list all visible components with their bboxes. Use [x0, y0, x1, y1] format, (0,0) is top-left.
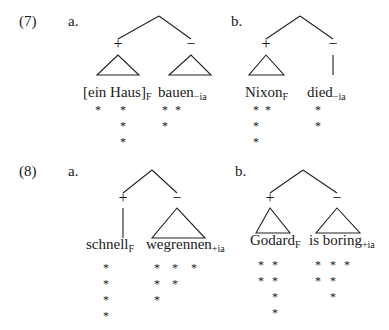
subexample-letter: b. — [235, 163, 246, 179]
minus-feature: − — [332, 189, 341, 206]
tree-branch — [270, 170, 303, 193]
tree-branch — [118, 16, 159, 39]
leaf-subscript: F — [295, 239, 301, 250]
leaf-subscript: F — [283, 91, 289, 102]
leaf-word: [ein Haus]F — [83, 84, 152, 102]
stress-grid-star: * — [253, 135, 259, 149]
triangle-node — [152, 208, 205, 238]
stress-grid-star: * — [103, 277, 109, 291]
leaf-word: GodardF — [250, 232, 301, 250]
stress-grid-star: * — [315, 103, 321, 117]
minus-feature: − — [328, 35, 337, 52]
stress-grid-star: * — [154, 277, 160, 291]
leaf-word-text: Godard — [250, 232, 295, 248]
leaf-word-text: is boring — [309, 232, 362, 248]
stress-grid-star: * — [103, 293, 109, 307]
stress-grid-star: * — [344, 258, 350, 272]
subexample-letter: a. — [68, 163, 78, 179]
plus-feature: + — [118, 189, 127, 206]
stress-grid-star: * — [272, 306, 278, 320]
example-number: (7) — [19, 13, 37, 30]
minus-feature: − — [172, 189, 181, 206]
stress-grid-star: * — [191, 261, 197, 275]
stress-grid-star: * — [258, 274, 264, 288]
stress-grid-star: * — [330, 290, 336, 304]
triangle-node — [97, 55, 139, 75]
triangle-node — [316, 208, 360, 233]
syntax-tree-figure: (7)a.+[ein Haus]F****−bauen−ia***b.+Nixo… — [0, 0, 389, 330]
stress-grid-star: * — [154, 293, 160, 307]
stress-grid-star: * — [162, 119, 168, 133]
leaf-word: died−ia — [307, 84, 346, 102]
stress-grid-star: * — [258, 258, 264, 272]
leaf-word-text: died — [307, 84, 333, 100]
plus-feature: + — [261, 35, 270, 52]
stress-grid-star: * — [172, 277, 178, 291]
tree-branch — [266, 16, 300, 39]
subexample-letter: b. — [231, 13, 242, 29]
stress-grid-star: * — [265, 103, 271, 117]
stress-grid-star: * — [330, 258, 336, 272]
example-number: (8) — [19, 163, 37, 180]
subexample-letter: a. — [68, 13, 78, 29]
leaf-word-text: bauen — [158, 84, 194, 100]
stress-grid-star: * — [272, 290, 278, 304]
leaf-word-text: wegrennen — [146, 236, 212, 252]
stress-grid-star: * — [172, 261, 178, 275]
leaf-word: bauen−ia — [158, 84, 207, 102]
stress-grid-star: * — [315, 274, 321, 288]
leaf-word-text: Nixon — [245, 84, 283, 100]
stress-grid-star: * — [120, 135, 126, 149]
stress-grid-star: * — [253, 103, 259, 117]
leaf-subscript: −ia — [333, 91, 346, 102]
triangle-node — [249, 55, 284, 75]
leaf-word: is boring+ia — [309, 232, 375, 250]
leaf-word: NixonF — [245, 84, 289, 102]
leaf-subscript: +ia — [212, 243, 225, 254]
stress-grid-star: * — [103, 261, 109, 275]
leaf-subscript: −ia — [194, 91, 207, 102]
leaf-word: schnellF — [86, 236, 135, 254]
stress-grid-star: * — [162, 103, 168, 117]
stress-grid-star: * — [120, 119, 126, 133]
triangle-node — [256, 208, 290, 233]
leaf-subscript: +ia — [362, 239, 375, 250]
leaf-word-text: [ein Haus] — [83, 84, 146, 100]
leaf-word: wegrennen+ia — [146, 236, 225, 254]
stress-grid-star: * — [272, 274, 278, 288]
leaf-subscript: F — [146, 91, 152, 102]
stress-grid-star: * — [154, 261, 160, 275]
stress-grid-star: * — [315, 119, 321, 133]
stress-grid-star: * — [253, 119, 259, 133]
leaf-word-text: schnell — [86, 236, 129, 252]
stress-grid-star: * — [103, 309, 109, 323]
stress-grid-star: * — [95, 103, 101, 117]
stress-grid-star: * — [330, 274, 336, 288]
stress-grid-star: * — [120, 103, 126, 117]
minus-feature: − — [186, 35, 195, 52]
leaf-subscript: F — [129, 243, 135, 254]
tree-diagrams: (7)a.+[ein Haus]F****−bauen−ia***b.+Nixo… — [0, 0, 389, 330]
triangle-node — [169, 55, 211, 75]
stress-grid-star: * — [272, 258, 278, 272]
stress-grid-star: * — [315, 258, 321, 272]
plus-feature: + — [113, 35, 122, 52]
plus-feature: + — [265, 189, 274, 206]
stress-grid-star: * — [175, 103, 181, 117]
